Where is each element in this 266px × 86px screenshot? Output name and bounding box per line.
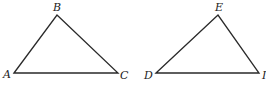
triangle-abc-edges: [14, 15, 118, 73]
vertex-label-a: A: [2, 68, 11, 81]
vertex-label-c: C: [120, 69, 129, 82]
vertex-label-b: B: [52, 1, 61, 14]
triangles-diagram: A B C D E I: [0, 0, 266, 86]
triangle-dei: D E I: [143, 1, 266, 82]
vertex-label-d: D: [143, 69, 153, 82]
triangle-dei-edges: [156, 15, 259, 73]
vertex-label-e: E: [214, 1, 223, 14]
triangle-abc: A B C: [2, 1, 129, 82]
vertex-label-i: I: [261, 69, 266, 82]
